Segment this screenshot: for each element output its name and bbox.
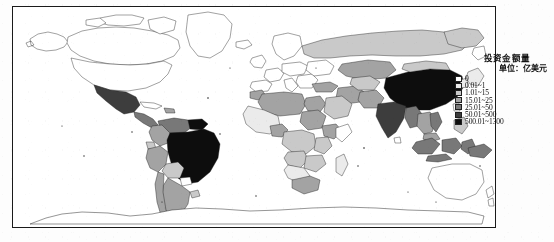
- island-speck: [363, 147, 365, 149]
- legend-swatch: [455, 119, 462, 125]
- island-speck: [207, 97, 209, 99]
- scanned-map-figure: .ld{fill:#ffffff;stroke:#141414;stroke-w…: [0, 0, 554, 242]
- island-speck: [131, 131, 132, 132]
- legend-title: 投资金额量: [463, 54, 551, 63]
- region-sri-lanka: [394, 137, 401, 143]
- island-speck: [357, 165, 358, 166]
- legend-swatch: [455, 76, 462, 82]
- island-speck: [315, 67, 316, 68]
- island-speck: [61, 125, 62, 126]
- island-speck: [479, 165, 480, 166]
- legend-swatch: [455, 90, 462, 96]
- legend-item-label: 500.01~1300: [465, 118, 504, 125]
- island-speck: [229, 67, 230, 68]
- region-hispaniola: [164, 108, 175, 113]
- island-speck: [407, 191, 408, 192]
- world-map-svg: .ld{fill:#ffffff;stroke:#141414;stroke-w…: [12, 6, 496, 228]
- region-germany-poland: [282, 62, 308, 76]
- island-speck: [83, 155, 84, 156]
- legend-unit: 单位：亿美元: [455, 64, 547, 73]
- island-speck: [161, 201, 162, 202]
- island-speck: [219, 133, 220, 134]
- island-speck: [435, 201, 436, 202]
- map-legend: 投资金额量 单位：亿美元 0 0.01~1 1.01~15 15.01~25 2…: [455, 54, 551, 125]
- island-speck: [255, 195, 256, 196]
- legend-swatch: [455, 112, 462, 118]
- legend-swatch: [455, 97, 462, 103]
- legend-swatch: [455, 83, 462, 89]
- world-map: .ld{fill:#ffffff;stroke:#141414;stroke-w…: [12, 6, 496, 228]
- legend-swatch: [455, 104, 462, 110]
- legend-item: 500.01~1300: [455, 118, 551, 125]
